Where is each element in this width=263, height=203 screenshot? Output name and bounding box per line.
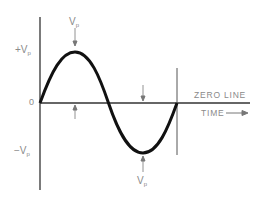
plus-vp-label: +Vp — [15, 45, 31, 56]
zero-line-label: ZERO LINE — [194, 91, 246, 100]
peak-bottom-label: Vp — [137, 176, 147, 187]
peak-top-label: Vp — [69, 17, 79, 28]
arrow-up-trough-icon — [141, 156, 145, 172]
arrow-down-zero-icon — [141, 85, 145, 101]
time-arrow-icon — [226, 111, 248, 116]
arrow-down-peak-icon — [73, 28, 77, 46]
arrow-up-zero-icon — [73, 105, 77, 119]
time-label: TIME — [201, 109, 225, 118]
minus-vp-label: −Vp — [14, 146, 30, 157]
sine-wave-diagram — [0, 0, 263, 203]
origin-label: 0 — [29, 98, 34, 107]
